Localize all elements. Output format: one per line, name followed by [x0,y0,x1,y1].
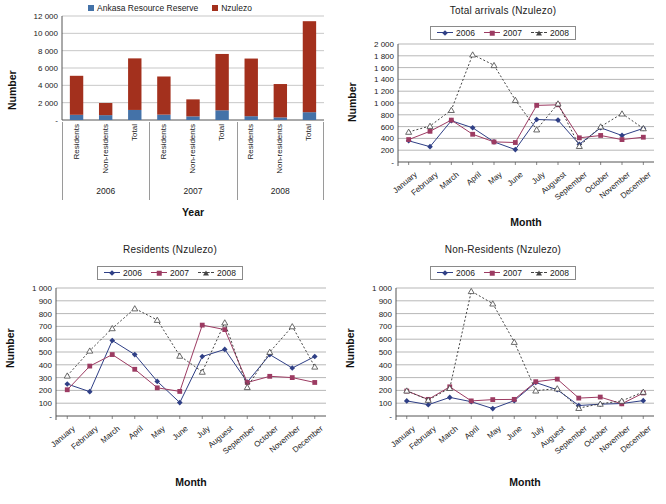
y-tick-label: 1 800 [374,51,394,60]
legend-label-nzulezo: Nzulezo [221,3,252,13]
legend-item-2008[interactable]: 2008 [531,28,569,38]
panel-residents-chart: Residents (Nzulezo) 2006 2007 2008 Numbe… [0,236,340,504]
panel-stacked-bar-chart: Ankasa Resource Reserve Nzulezo Number -… [0,0,340,232]
non-residents-title: Non-Residents (Nzulezo) [340,244,666,255]
y-tick-label: - [55,116,58,125]
y-tick-label: 2 000 [38,98,58,107]
y-tick-label: 700 [379,322,392,331]
y-tick-label: 100 [39,399,52,408]
legend-item-2008[interactable]: 2008 [198,268,236,278]
bar-category-label: Non-residents [275,124,284,174]
group-separator [323,182,324,198]
square-swatch-icon [88,5,94,11]
y-tick-label: 900 [39,296,52,305]
total-arrivals-title: Total arrivals (Nzulezo) [340,5,666,16]
y-tick-label: 400 [379,360,392,369]
total-arrivals-y-ticks: -2004006008001 0001 2001 4001 6001 8002 … [352,44,394,162]
y-tick-label: 2 000 [374,40,394,49]
non-residents-legend: 2006 2007 2008 [430,266,576,280]
total-arrivals-x-ticks: JanuaryFebruaryMarchAprilMayJuneJulyAugu… [398,166,654,212]
legend-label-2008: 2008 [550,268,569,278]
line-sample-2008 [198,272,214,273]
y-tick-label: 100 [379,399,392,408]
y-tick-label: 800 [379,309,392,318]
residents-title: Residents (Nzulezo) [0,244,340,255]
panel-total-arrivals-chart: Total arrivals (Nzulezo) 2006 2007 2008 … [340,0,666,232]
bar-chart-y-ticks: -2 0004 0006 0008 00010 00012 000 [16,16,58,120]
y-tick-label: 4 000 [38,81,58,90]
bar-category-label: Non-residents [188,124,197,174]
line-sample-2006 [104,272,120,273]
total-arrivals-x-axis-label: Month [398,216,654,228]
line-sample-2006 [437,32,453,33]
y-tick-label: 400 [381,134,394,143]
legend-label-2007: 2007 [170,268,189,278]
y-tick-label: - [391,158,394,167]
y-tick-label: 6 000 [38,64,58,73]
legend-item-2007[interactable]: 2007 [151,268,189,278]
line-sample-2008 [531,272,547,273]
y-tick-label: 1 000 [32,284,52,293]
residents-x-ticks: JanuaryFebruaryMarchAprilMayJuneJulyAugu… [56,420,326,468]
y-tick-label: 300 [379,373,392,382]
bar-chart-plot-area [62,16,324,120]
y-tick-label: 900 [379,296,392,305]
non-residents-x-ticks: JanuaryFebruaryMarchAprilMayJuneJulyAugu… [396,420,654,468]
y-tick-label: 10 000 [34,29,58,38]
y-tick-label: 700 [39,322,52,331]
legend-item-2006[interactable]: 2006 [437,268,475,278]
line-sample-2006 [437,272,453,273]
y-tick-label: 400 [39,360,52,369]
residents-legend: 2006 2007 2008 [97,266,243,280]
legend-label-2008: 2008 [217,268,236,278]
y-tick-label: 8 000 [38,46,58,55]
y-tick-label: 200 [379,386,392,395]
legend-label-2007: 2007 [503,28,522,38]
bar-group-label: 2006 [62,186,149,196]
group-separator [149,182,150,198]
y-tick-label: 600 [381,122,394,131]
y-tick-label: 1 200 [374,87,394,96]
y-tick-label: 1 000 [374,99,394,108]
y-tick-label: 1 000 [372,284,392,293]
residents-plot-area [56,288,326,416]
legend-item-2006[interactable]: 2006 [437,28,475,38]
bar-category-label: Residents [72,124,81,160]
total-arrivals-plot-area [398,44,654,162]
residents-y-ticks: -1002003004005006007008009001 000 [10,288,52,416]
bar-group-label: 2007 [149,186,236,196]
y-tick-label: 800 [39,309,52,318]
total-arrivals-legend: 2006 2007 2008 [430,26,576,40]
legend-item-2008[interactable]: 2008 [531,268,569,278]
y-tick-label: 800 [381,110,394,119]
legend-item-2006[interactable]: 2006 [104,268,142,278]
group-separator [237,182,238,198]
bar-chart-category-labels: ResidentsNon-residentsTotalResidentsNon-… [62,122,324,184]
non-residents-x-axis-label: Month [396,476,654,488]
line-sample-2007 [484,272,500,273]
legend-item-2007[interactable]: 2007 [484,28,522,38]
legend-label-2006: 2006 [123,268,142,278]
legend-item-2007[interactable]: 2007 [484,268,522,278]
y-tick-label: - [49,412,52,421]
y-tick-label: 200 [39,386,52,395]
y-tick-label: 500 [39,348,52,357]
y-tick-label: 1 600 [374,63,394,72]
line-sample-2007 [484,32,500,33]
non-residents-y-ticks: -1002003004005006007008009001 000 [350,288,392,416]
line-sample-2008 [531,32,547,33]
y-tick-label: 12 000 [34,12,58,21]
line-sample-2007 [151,272,167,273]
y-tick-label: 600 [379,335,392,344]
bar-chart-x-axis-label: Year [62,206,324,218]
bar-category-label: Total [130,124,139,141]
bar-category-label: Residents [246,124,255,160]
non-residents-plot-area [396,288,654,416]
y-tick-label: 600 [39,335,52,344]
bar-category-label: Total [217,124,226,141]
legend-label-2006: 2006 [456,28,475,38]
legend-label-2008: 2008 [550,28,569,38]
bar-chart-group-labels: 200620072008 [62,186,324,200]
residents-x-axis-label: Month [56,476,326,488]
group-separator [62,182,63,198]
